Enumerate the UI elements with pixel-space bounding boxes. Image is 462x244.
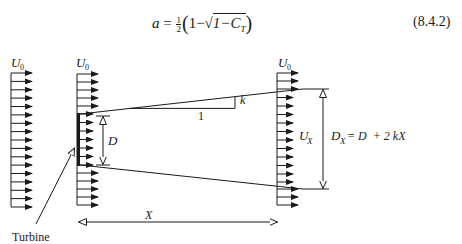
label-u0-left-sub: 0 xyxy=(20,63,24,72)
label-u0-right-sub: 0 xyxy=(287,63,291,72)
label-turbine: Turbine xyxy=(12,230,50,244)
turbine-disk xyxy=(77,113,80,166)
label-ux-sub: X xyxy=(306,136,313,146)
wake-diagram: U 0 U 0 D xyxy=(0,0,462,244)
label-dx-sub: X xyxy=(339,136,346,146)
label-d: D xyxy=(107,133,118,148)
label-u0-mid-sub: 0 xyxy=(85,63,89,72)
label-dx-formula: = D + 2 kX xyxy=(347,129,406,143)
turbine-plane-profile xyxy=(77,74,98,205)
turbine-pointer-arrow xyxy=(36,148,75,224)
label-slope-1: 1 xyxy=(198,109,204,123)
freestream-profile-left xyxy=(11,73,32,207)
label-x: X xyxy=(144,208,153,222)
label-slope-k: k xyxy=(240,93,246,107)
downstream-profile xyxy=(277,73,298,205)
